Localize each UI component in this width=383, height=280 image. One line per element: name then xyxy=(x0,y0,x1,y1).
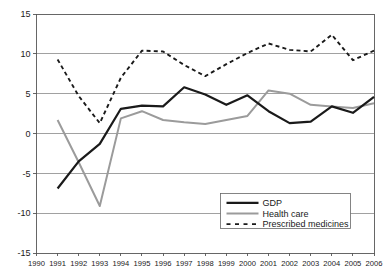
y-tick-label: 5 xyxy=(25,89,30,99)
y-tick-label: 10 xyxy=(20,49,30,59)
line-chart: 151050-5-10-15 1990199119921993199419951… xyxy=(0,0,383,280)
y-axis-ticks: 151050-5-10-15 xyxy=(17,9,36,258)
series-line-health-care xyxy=(58,90,374,206)
y-tick-label: -10 xyxy=(17,208,30,218)
x-tick-label: 2001 xyxy=(260,259,277,268)
y-tick-label: -15 xyxy=(17,248,30,258)
x-tick-label: 1993 xyxy=(91,259,108,268)
x-tick-label: 2006 xyxy=(366,259,383,268)
legend-label-gdp: GDP xyxy=(263,198,283,208)
y-tick-label: 15 xyxy=(20,9,30,19)
x-tick-label: 1994 xyxy=(112,259,129,268)
gridlines xyxy=(37,54,375,213)
x-tick-label: 1996 xyxy=(155,259,172,268)
data-series xyxy=(58,35,374,206)
chart-legend: GDPHealth carePrescribed medicines xyxy=(221,194,351,230)
y-tick-label: 0 xyxy=(25,129,30,139)
y-tick-label: -5 xyxy=(22,169,30,179)
x-tick-label: 1991 xyxy=(49,259,66,268)
x-axis-ticks: 1990199119921993199419951996199719981999… xyxy=(28,253,382,268)
x-tick-label: 1992 xyxy=(70,259,87,268)
x-tick-label: 2000 xyxy=(239,259,256,268)
legend-label-health-care: Health care xyxy=(263,209,309,219)
x-tick-label: 2003 xyxy=(302,259,319,268)
chart-canvas: 151050-5-10-15 1990199119921993199419951… xyxy=(0,0,383,280)
x-tick-label: 2005 xyxy=(344,259,361,268)
x-tick-label: 1990 xyxy=(28,259,45,268)
x-tick-label: 2002 xyxy=(281,259,298,268)
legend-label-prescribed-medicines: Prescribed medicines xyxy=(263,219,350,229)
x-tick-label: 1995 xyxy=(134,259,151,268)
x-tick-label: 1997 xyxy=(176,259,193,268)
x-tick-label: 1999 xyxy=(218,259,235,268)
x-tick-label: 2004 xyxy=(323,259,340,268)
x-tick-label: 1998 xyxy=(197,259,214,268)
